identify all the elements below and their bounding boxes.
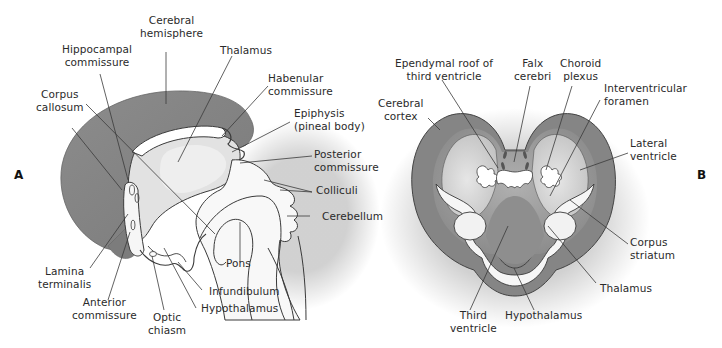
- label-interventricular-foramen: Interventricular foramen: [604, 82, 687, 108]
- label-thalamus-a: Thalamus: [220, 44, 272, 57]
- label-ependymal-roof: Ependymal roof of third ventricle: [395, 57, 493, 83]
- label-posterior-commissure: Posterior commissure: [314, 148, 379, 174]
- label-cerebral-cortex: Cerebral cortex: [378, 97, 423, 123]
- label-hypothalamus-a: Hypothalamus: [201, 302, 278, 315]
- label-corpus-striatum: Corpus striatum: [630, 236, 675, 262]
- label-choroid-plexus: Choroid plexus: [560, 57, 601, 83]
- label-optic-chiasm: Optic chiasm: [148, 311, 186, 337]
- panel-label-b: B: [697, 168, 706, 182]
- label-corpus-callosum: Corpus callosum: [36, 88, 84, 114]
- label-anterior-commissure: Anterior commissure: [72, 296, 137, 322]
- label-infundibulum: Infundibulum: [209, 285, 280, 298]
- label-pons: Pons: [226, 257, 251, 270]
- label-lateral-ventricle: Lateral ventricle: [630, 137, 677, 163]
- label-epiphysis: Epiphysis (pineal body): [294, 107, 365, 133]
- label-cerebral-hemisphere: Cerebral hemisphere: [140, 14, 203, 40]
- label-third-ventricle: Third ventricle: [450, 309, 497, 335]
- label-thalamus-b: Thalamus: [600, 282, 652, 295]
- label-hypothalamus-b: Hypothalamus: [505, 309, 582, 322]
- label-hippocampal-commissure: Hippocampal commissure: [62, 43, 132, 69]
- label-habenular-commissure: Habenular commissure: [268, 72, 333, 98]
- panel-label-a: A: [14, 168, 23, 182]
- label-cerebellum: Cerebellum: [322, 210, 383, 223]
- label-falx-cerebri: Falx cerebri: [514, 57, 551, 83]
- brain-development-figure: A B Cerebral hemisphere Hippocampal comm…: [0, 0, 722, 348]
- label-colliculi: Colliculi: [316, 184, 358, 197]
- label-lamina-terminalis: Lamina terminalis: [38, 265, 91, 291]
